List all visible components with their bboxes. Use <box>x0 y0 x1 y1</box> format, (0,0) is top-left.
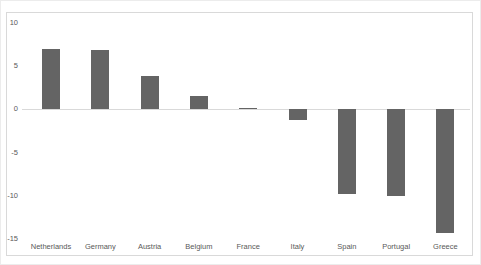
bar-portugal <box>387 109 405 195</box>
bar-spain <box>338 109 356 194</box>
bar-chart: 1050-5-10-15NetherlandsGermanyAustriaBel… <box>0 0 481 265</box>
bar-germany <box>91 50 109 110</box>
y-axis-tick-label: 10 <box>4 19 18 27</box>
y-axis-tick-label: 0 <box>4 105 18 113</box>
bar-greece <box>436 109 454 233</box>
x-axis-label-greece: Greece <box>415 242 475 251</box>
y-axis-tick-label: -10 <box>4 192 18 200</box>
bar-austria <box>141 76 159 110</box>
bar-belgium <box>190 96 208 110</box>
bar-france <box>239 108 257 110</box>
bar-netherlands <box>42 49 60 109</box>
y-axis-tick-label: -5 <box>4 149 18 157</box>
chart-frame: 1050-5-10-15NetherlandsGermanyAustriaBel… <box>6 12 473 256</box>
bar-italy <box>289 109 307 119</box>
y-axis-tick-label: -15 <box>4 235 18 243</box>
y-axis-tick-label: 5 <box>4 62 18 70</box>
